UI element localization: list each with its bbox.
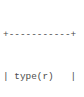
query-result-output: +-----------+ | type(r) | +-----------+ … bbox=[3, 1, 76, 97]
table-border-top: +-----------+ bbox=[3, 28, 76, 42]
table-header-row: | type(r) | bbox=[3, 70, 76, 84]
